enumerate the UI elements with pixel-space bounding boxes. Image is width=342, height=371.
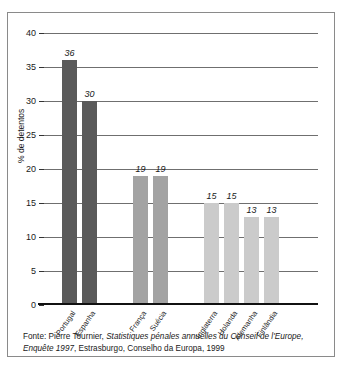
y-axis-tick [39,33,44,34]
y-axis-tick [39,305,44,306]
bar: 30Espanha [82,101,97,305]
bar: 15Inglaterra [204,203,219,305]
bar: 19Suécia [153,176,168,305]
y-axis-tick [39,67,44,68]
y-axis-tick-label: 10 [26,232,36,242]
x-axis-line [38,303,318,305]
bar-value-label: 13 [266,205,276,215]
x-axis-category-label: França [127,309,148,333]
bar: 36Portugal [62,60,77,305]
y-axis-tick [39,135,44,136]
y-axis-title: % de detentos [16,109,26,163]
source-suffix: , Estrasburgo, Conselho da Europa, 1999 [74,344,225,353]
gridline [44,33,318,34]
bar: 13Finlândia [264,217,279,305]
y-axis-tick-label: 35 [26,62,36,72]
source-prefix: Fonte: Pierre Tournier, [23,332,106,341]
bar-value-label: 19 [155,164,165,174]
y-axis-tick [39,237,44,238]
bar-value-label: 36 [64,48,74,58]
y-axis-tick [39,169,44,170]
x-axis-category-label: Suécia [147,309,168,333]
bar: 13Alemanha [244,217,259,305]
y-axis-tick-label: 15 [26,198,36,208]
y-axis-tick [39,101,44,102]
bar-value-label: 15 [206,191,216,201]
y-axis-tick-label: 20 [26,164,36,174]
bar-value-label: 13 [246,205,256,215]
gridline [44,67,318,68]
plot-area: 0510152025303540 36Portugal30Espanha19Fr… [44,33,318,305]
y-axis-tick-label: 5 [31,266,36,276]
source-note: Fonte: Pierre Tournier, Statistiques pén… [23,331,322,355]
bar-value-label: 19 [135,164,145,174]
y-axis-tick [39,271,44,272]
y-axis-tick-label: 30 [26,96,36,106]
y-axis-tick-label: 25 [26,130,36,140]
bar: 19França [133,176,148,305]
y-axis-tick-label: 0 [31,300,36,310]
bar-value-label: 30 [84,89,94,99]
chart-figure: % de detentos 0510152025303540 36Portuga… [7,12,335,357]
bar-value-label: 15 [226,191,236,201]
y-axis-tick-label: 40 [26,28,36,38]
y-axis-tick [39,203,44,204]
bar: 15Holanda [224,203,239,305]
